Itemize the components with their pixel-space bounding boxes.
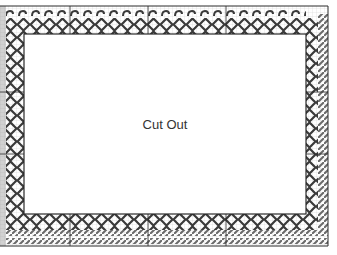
left-diamond-band [6,34,24,214]
bottom-hatch-row-1 [6,230,328,236]
top-curl-row [6,8,306,18]
right-hatch-column [318,14,328,230]
cut-out-label: Cut Out [24,34,306,214]
right-diamond-band [306,18,318,230]
left-edge-shade [0,6,6,246]
bottom-diamond-band [6,214,306,230]
top-diamond-band [6,18,306,34]
cut-out-text: Cut Out [143,117,188,132]
bottom-hatch-row-2 [6,238,328,244]
